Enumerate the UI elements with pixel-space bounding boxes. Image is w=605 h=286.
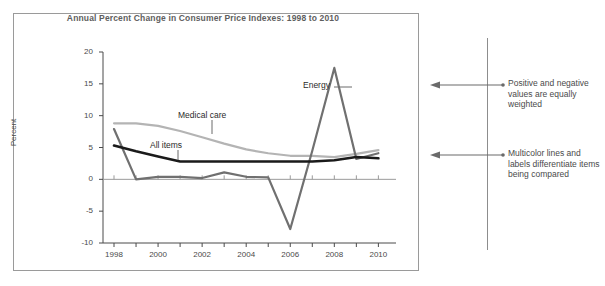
callout-arrow-positive-negative-head [430,81,440,88]
y-tick-label: 5 [67,143,93,152]
y-tick-label: -5 [67,206,93,215]
callout-text-multicolor: Multicolor lines and labels differentiat… [508,148,604,180]
y-tick-label: 20 [67,47,93,56]
line-chart-canvas [0,0,406,258]
callout-arrow-multicolor-head [430,151,440,158]
y-tick-label: 15 [67,79,93,88]
x-tick-label: 2010 [358,250,398,259]
x-tick-label: 2006 [270,250,310,259]
x-tick-label: 2000 [138,250,178,259]
series-label-energy: Energy [303,80,330,90]
x-tick-label: 1998 [94,250,134,259]
callout-text-positive-negative: Positive and negative values are equally… [508,78,604,110]
plot-area: Percent -10-5051015201998200020022004200… [0,0,406,258]
series-label-all-items: All items [150,140,182,150]
x-tick-label: 2004 [226,250,266,259]
y-tick-label: 10 [67,111,93,120]
y-tick-label: -10 [67,238,93,247]
x-tick-label: 2002 [182,250,222,259]
y-tick-label: 0 [67,174,93,183]
x-tick-label: 2008 [314,250,354,259]
series-label-medical-care: Medical care [178,110,226,120]
callout-rail [487,38,488,250]
